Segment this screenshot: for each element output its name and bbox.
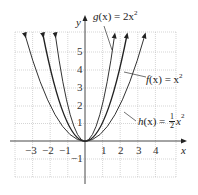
label-h-fraction: 1 2	[169, 113, 175, 130]
label-h-den: 2	[170, 122, 174, 130]
label-h-body: (x) =	[144, 116, 169, 127]
label-h: h(x) = 1 2 x2	[138, 113, 184, 130]
label-f-body: (x) = x	[149, 73, 179, 85]
x-tick-2: 2	[118, 145, 124, 156]
label-g-exp: 2	[134, 9, 138, 17]
leader-g	[104, 26, 112, 50]
x-tick--1: −1	[59, 145, 71, 156]
x-tick--2: −2	[42, 145, 54, 156]
x-tick-1: 1	[101, 145, 107, 156]
chart-canvas	[0, 0, 198, 195]
label-g-body: (x) = 2x	[99, 10, 135, 22]
x-tick-4: 4	[153, 145, 159, 156]
label-f-exp: 2	[179, 72, 183, 80]
grid	[15, 32, 176, 178]
label-g: g(x) = 2x2	[93, 10, 138, 22]
y-tick-2: 2	[77, 100, 83, 111]
y-tick--1: −1	[71, 153, 83, 164]
y-tick-3: 3	[77, 82, 83, 93]
label-h-exp: 2	[181, 113, 185, 120]
y-tick-5: 5	[77, 46, 83, 57]
x-tick-3: 3	[136, 145, 142, 156]
y-axis-label: y	[76, 17, 81, 28]
leader-h	[124, 112, 136, 121]
label-f: f(x) = x2	[146, 73, 183, 85]
x-tick--3: −3	[25, 145, 37, 156]
x-axis-label: x	[181, 145, 186, 156]
y-tick-1: 1	[77, 117, 83, 128]
y-tick-4: 4	[77, 64, 83, 75]
leader-f	[124, 72, 146, 77]
